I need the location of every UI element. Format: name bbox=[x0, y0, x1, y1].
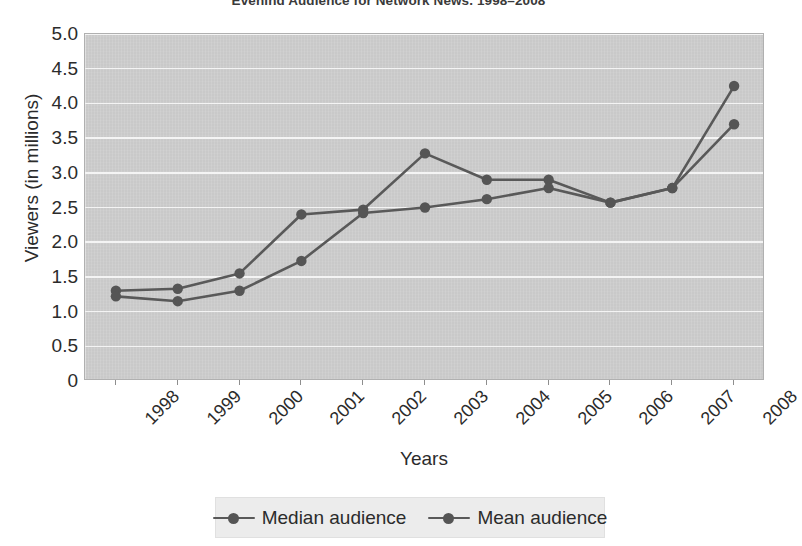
legend-line-marker-icon bbox=[213, 511, 255, 525]
data-point-marker bbox=[543, 183, 553, 193]
x-tick-label: 2002 bbox=[388, 386, 431, 429]
legend-entry[interactable]: Median audience bbox=[213, 507, 407, 529]
x-tick-label: 2003 bbox=[450, 386, 493, 429]
data-point-marker bbox=[482, 175, 492, 185]
series-line bbox=[116, 86, 734, 291]
legend-entry[interactable]: Mean audience bbox=[428, 507, 607, 529]
y-tick-label: 1.5 bbox=[8, 267, 78, 286]
y-tick-label: 3.0 bbox=[8, 163, 78, 182]
data-point-marker bbox=[173, 296, 183, 306]
y-tick-label: 4.5 bbox=[8, 59, 78, 78]
x-tick-label: 2001 bbox=[326, 386, 369, 429]
y-tick-label: 0.5 bbox=[8, 336, 78, 355]
x-tick-mark bbox=[486, 380, 487, 385]
data-point-marker bbox=[420, 148, 430, 158]
series-lines bbox=[85, 34, 764, 380]
y-tick-label: 0 bbox=[8, 371, 78, 390]
data-point-marker bbox=[482, 194, 492, 204]
data-point-marker bbox=[234, 286, 244, 296]
data-point-marker bbox=[173, 284, 183, 294]
chart-title: Evening Audience for Network News, 1998–… bbox=[0, 0, 777, 5]
x-tick-label: 1999 bbox=[202, 386, 245, 429]
data-point-marker bbox=[420, 202, 430, 212]
x-axis-tick-labels: 1998199920002001200220032004200520062007… bbox=[84, 380, 764, 446]
data-point-marker bbox=[296, 256, 306, 266]
data-point-marker bbox=[111, 291, 121, 301]
data-point-marker bbox=[729, 81, 739, 91]
x-tick-label: 2007 bbox=[697, 386, 740, 429]
y-tick-label: 2.5 bbox=[8, 198, 78, 217]
y-tick-label: 4.0 bbox=[8, 93, 78, 112]
x-tick-mark bbox=[300, 380, 301, 385]
x-tick-mark bbox=[424, 380, 425, 385]
chart-legend: Median audienceMean audience bbox=[215, 497, 605, 538]
x-tick-mark bbox=[671, 380, 672, 385]
x-tick-label: 2005 bbox=[573, 386, 616, 429]
legend-line-marker-icon bbox=[428, 511, 470, 525]
y-tick-label: 2.0 bbox=[8, 232, 78, 251]
x-tick-label: 2004 bbox=[512, 386, 555, 429]
data-point-marker bbox=[296, 209, 306, 219]
x-tick-label: 2008 bbox=[759, 386, 802, 429]
x-tick-mark bbox=[733, 380, 734, 385]
x-tick-label: 1998 bbox=[141, 386, 184, 429]
x-tick-label: 2000 bbox=[264, 386, 307, 429]
x-axis-label: Years bbox=[84, 448, 764, 470]
data-point-marker bbox=[605, 197, 615, 207]
x-tick-mark bbox=[239, 380, 240, 385]
x-tick-mark bbox=[609, 380, 610, 385]
y-tick-label: 3.5 bbox=[8, 128, 78, 147]
x-tick-mark bbox=[362, 380, 363, 385]
legend-label: Mean audience bbox=[477, 507, 607, 529]
x-tick-mark bbox=[548, 380, 549, 385]
plot-area bbox=[84, 33, 764, 380]
y-tick-label: 5.0 bbox=[8, 24, 78, 43]
x-tick-mark bbox=[115, 380, 116, 385]
y-tick-label: 1.0 bbox=[8, 302, 78, 321]
data-point-marker bbox=[234, 268, 244, 278]
x-tick-label: 2006 bbox=[635, 386, 678, 429]
x-tick-mark bbox=[177, 380, 178, 385]
y-axis-tick-labels: 00.51.01.52.02.53.03.54.04.55.0 bbox=[4, 33, 78, 380]
data-point-marker bbox=[729, 119, 739, 129]
legend-label: Median audience bbox=[262, 507, 407, 529]
data-point-marker bbox=[358, 208, 368, 218]
data-point-marker bbox=[667, 183, 677, 193]
